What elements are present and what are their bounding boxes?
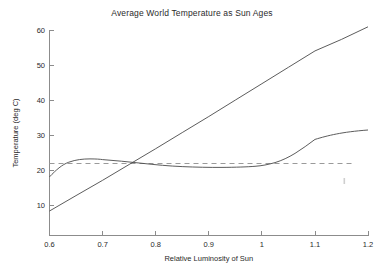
x-axis-label: Relative Luminosity of Sun — [164, 254, 253, 263]
x-tick-label: 0.7 — [97, 240, 107, 249]
y-tick-label: 50 — [37, 61, 45, 70]
y-axis-ticks — [50, 31, 55, 206]
x-tick-label: 1.1 — [310, 240, 320, 249]
x-axis-ticks — [50, 231, 369, 236]
x-tick-label: 0.6 — [44, 240, 54, 249]
x-tick-label: 0.8 — [150, 240, 160, 249]
x-tick-label: 0.9 — [204, 240, 214, 249]
series-regulated-temperature-curve — [50, 130, 369, 177]
chart-figure: Average World Temperature as Sun Ages — [0, 0, 384, 277]
series-runaway-greenhouse-curve — [50, 27, 369, 211]
y-tick-label: 30 — [37, 131, 45, 140]
y-tick-labels: 60 50 40 30 20 10 — [37, 26, 45, 210]
x-tick-label: 1.2 — [363, 240, 373, 249]
x-tick-labels: 0.6 0.7 0.8 0.9 1 1.1 1.2 — [44, 240, 373, 249]
x-tick-label: 1 — [260, 240, 264, 249]
plot-canvas: 60 50 40 30 20 10 0.6 0.7 0.8 0.9 1 1.1 … — [0, 0, 384, 277]
stray-mark-artifact — [344, 178, 346, 184]
y-tick-label: 10 — [37, 201, 45, 210]
y-tick-label: 40 — [37, 96, 45, 105]
y-tick-label: 60 — [37, 26, 45, 35]
y-axis-label: Temperature (deg C) — [11, 98, 20, 168]
y-tick-label: 20 — [37, 166, 45, 175]
